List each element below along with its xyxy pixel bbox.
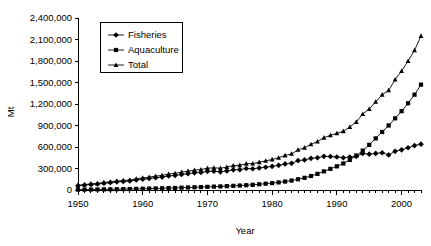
marker-diamond [418,141,424,147]
marker-diamond [341,155,347,161]
marker-diamond [334,154,340,160]
marker-square [114,48,118,52]
y-axis-group: 0300,000600,000900,0001,200,0001,500,000… [30,12,78,195]
marker-square [419,83,423,87]
marker-square [374,136,378,140]
marker-diamond [256,165,262,171]
marker-diamond [302,157,308,163]
series-line-aquaculture [78,85,421,190]
x-axis-group: 195019601970198019902000 [67,190,421,209]
marker-diamond [373,151,379,157]
y-tick-label: 2,400,000 [30,12,72,23]
marker-square [95,187,99,191]
marker-square [121,187,125,191]
marker-square [302,176,306,180]
marker-square [354,154,358,158]
x-tick-label: 1980 [262,198,283,209]
marker-square [192,185,196,189]
y-tick-labels: 0300,000600,000900,0001,200,0001,500,000… [30,12,72,195]
marker-square [283,179,287,183]
marker-square [270,181,274,185]
y-tick-label: 1,500,000 [30,77,72,88]
marker-square [225,184,229,188]
series-fisheries [75,141,424,188]
y-tick-label: 2,100,000 [30,34,72,45]
marker-triangle [302,145,307,150]
marker-diamond [269,164,275,170]
marker-square [393,116,397,120]
marker-square [186,185,190,189]
marker-diamond [243,166,249,172]
y-axis-title: Mt [5,106,16,117]
marker-diamond [263,164,269,170]
marker-square [141,187,145,191]
marker-square [102,187,106,191]
marker-square [154,186,158,190]
line-chart: 0300,000600,000900,0001,200,0001,500,000… [0,0,431,246]
marker-square [134,187,138,191]
marker-diamond [386,152,392,158]
marker-square [322,169,326,173]
marker-diamond [379,150,385,156]
marker-square [128,187,132,191]
marker-square [380,130,384,134]
marker-triangle [289,151,294,156]
marker-diamond [399,147,405,153]
marker-square [231,184,235,188]
marker-square [173,186,177,190]
marker-diamond [230,167,236,173]
marker-diamond [308,155,314,161]
marker-square [205,185,209,189]
marker-square [251,183,255,187]
marker-triangle [360,111,365,116]
marker-square [399,109,403,113]
marker-diamond [366,151,372,157]
marker-square [335,164,339,168]
x-tick-labels: 195019601970198019902000 [67,198,412,209]
legend: FisheriesAquacultureTotal [100,22,182,72]
marker-diamond [392,148,398,154]
marker-diamond [295,158,301,164]
marker-diamond [276,163,282,169]
marker-square [167,186,171,190]
marker-square [387,123,391,127]
x-tick-label: 1970 [197,198,218,209]
marker-diamond [282,161,288,167]
marker-square [264,182,268,186]
series-aquaculture [76,83,423,192]
x-tick-label: 1990 [326,198,347,209]
marker-square [218,184,222,188]
marker-triangle [380,92,385,97]
marker-diamond [289,161,295,167]
x-tick-label: 1950 [67,198,88,209]
marker-diamond [328,154,334,160]
marker-square [341,161,345,165]
marker-triangle [386,88,391,93]
marker-square [315,172,319,176]
marker-diamond [250,166,256,172]
legend-item-label: Fisheries [128,29,167,40]
marker-square [179,186,183,190]
marker-triangle [315,139,320,144]
marker-square [108,187,112,191]
marker-square [238,183,242,187]
y-tick-label: 900,000 [38,120,72,131]
marker-diamond [321,153,327,159]
marker-square [160,186,164,190]
marker-square [212,185,216,189]
marker-square [406,101,410,105]
y-tick-label: 600,000 [38,141,72,152]
legend-item-label: Aquaculture [128,44,179,55]
marker-square [367,143,371,147]
y-tick-label: 1,200,000 [30,98,72,109]
marker-triangle [341,129,346,134]
y-tick-label: 300,000 [38,163,72,174]
marker-diamond [405,145,411,151]
x-tick-label: 1960 [132,198,153,209]
marker-diamond [315,155,321,161]
marker-square [82,187,86,191]
x-tick-label: 2000 [391,198,412,209]
marker-square [361,148,365,152]
marker-square [412,93,416,97]
marker-triangle [419,33,424,38]
